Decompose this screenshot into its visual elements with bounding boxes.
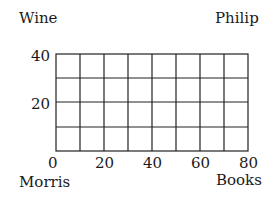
x-tick-40: 40 [143,156,162,171]
x-tick-60: 60 [191,156,210,171]
grid [0,0,277,199]
x-tick-80: 80 [239,156,258,171]
label-books: Books [216,173,262,188]
label-morris: Morris [19,175,70,190]
x-tick-0: 0 [48,156,58,171]
x-tick-20: 20 [95,156,114,171]
